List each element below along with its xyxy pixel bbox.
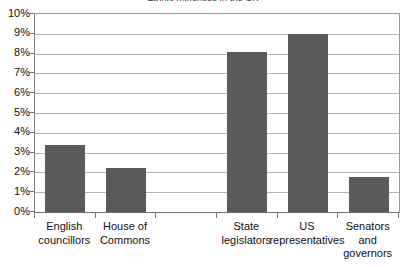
y-axis-tick-label: 7% [0,67,30,78]
bar [106,168,146,212]
y-axis-tick-label: 1% [0,186,30,197]
y-axis-tick-label: 9% [0,27,30,38]
gridline [35,172,399,173]
x-axis-tick [398,212,399,218]
x-axis-category-label-line: and [325,234,406,248]
x-axis-category-label-line: governors [325,247,406,261]
gridline [35,113,399,114]
y-axis-tick-label: 3% [0,146,30,157]
x-axis-category-label-line: Senators [325,220,406,234]
y-axis-tick-label: 5% [0,107,30,118]
bar [227,52,267,212]
bar [288,34,328,212]
y-axis-tick-label: 8% [0,47,30,58]
gridline [35,73,399,74]
gridline [35,133,399,134]
y-axis-tick-label: 4% [0,126,30,137]
gridline [35,34,399,35]
y-axis-tick-label: 0% [0,206,30,217]
x-axis-tick [216,212,217,218]
bar-chart: Ethnic minorities in the UK 0%1%2%3%4%5%… [0,0,406,267]
bar [349,177,389,212]
y-axis-tick-label: 10% [0,8,30,19]
x-axis-tick [95,212,96,218]
x-axis-category-label: House ofCommons [83,220,168,247]
bar [45,145,85,212]
gridline [35,93,399,94]
x-axis-tick [34,212,35,218]
gridline [35,54,399,55]
gridline [35,153,399,154]
x-axis-category-label-line: House of [83,220,168,234]
x-axis-tick [155,212,156,218]
plot-area [34,13,400,213]
chart-title: Ethnic minorities in the UK [0,0,406,1]
x-axis-tick [337,212,338,218]
gridline [35,192,399,193]
x-axis-category-label-line: Commons [83,234,168,248]
y-axis-tick-label: 6% [0,87,30,98]
x-axis-category-label: Senatorsandgovernors [325,220,406,261]
x-axis-tick [277,212,278,218]
y-axis-tick-label: 2% [0,166,30,177]
